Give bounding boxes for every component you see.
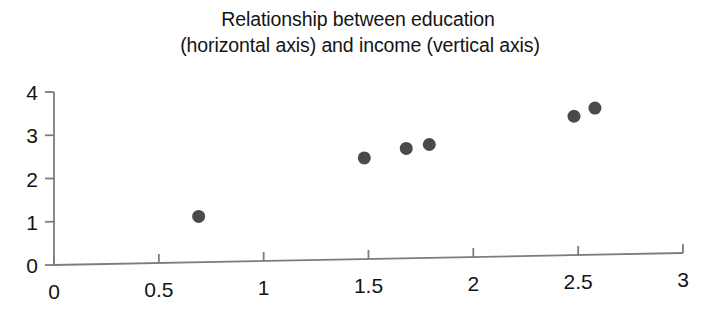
x-tick-label-3: 3	[677, 269, 689, 290]
x-tick-label-1: 1	[258, 277, 270, 298]
axes	[54, 92, 683, 265]
x-tick-label-0: 0	[48, 281, 60, 302]
scatter-plot: 00.511.522.53 01234	[0, 0, 714, 322]
data-point-5	[567, 110, 580, 123]
y-tick-label-0: 0	[12, 255, 38, 276]
data-point-6	[588, 102, 601, 115]
x-tick-label-2: 2	[467, 273, 479, 294]
x-tick-label-2.5: 2.5	[564, 271, 593, 292]
data-point-2	[358, 151, 371, 164]
y-tick-label-2: 2	[12, 168, 38, 189]
x-tick-label-1.5: 1.5	[354, 275, 383, 296]
y-tick-label-4: 4	[12, 82, 38, 103]
data-point-3	[400, 142, 413, 155]
data-point-4	[423, 138, 436, 151]
data-point-1	[192, 210, 205, 223]
axis-ticks	[45, 92, 683, 265]
y-tick-label-1: 1	[12, 211, 38, 232]
x-tick-label-0.5: 0.5	[144, 279, 173, 300]
data-points	[192, 102, 601, 223]
y-tick-label-3: 3	[12, 125, 38, 146]
